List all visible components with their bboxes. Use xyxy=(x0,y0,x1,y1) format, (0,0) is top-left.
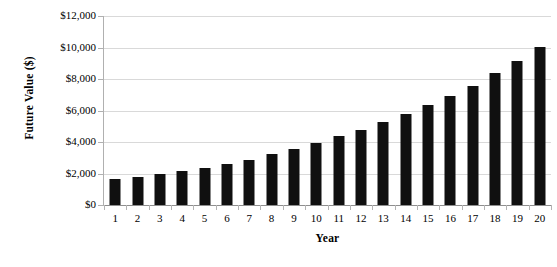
x-axis-tick xyxy=(305,205,306,210)
y-axis-tick xyxy=(98,16,104,17)
x-axis-tick-label: 7 xyxy=(238,211,260,225)
bar-slot xyxy=(305,16,327,205)
bar-slot xyxy=(462,16,484,205)
bar-slot xyxy=(372,16,394,205)
bar[interactable] xyxy=(177,171,188,205)
y-axis-tick-label: $12,000 xyxy=(2,10,96,21)
bar[interactable] xyxy=(221,164,232,205)
bar[interactable] xyxy=(311,143,322,205)
bar[interactable] xyxy=(288,149,299,205)
bar[interactable] xyxy=(378,122,389,205)
x-axis-tick xyxy=(283,205,284,210)
bar-slot xyxy=(506,16,528,205)
x-axis-tick xyxy=(551,205,552,210)
x-axis-tick xyxy=(104,205,105,210)
bar-slot xyxy=(283,16,305,205)
x-axis-tick xyxy=(216,205,217,210)
bar-slot xyxy=(126,16,148,205)
x-axis-tick xyxy=(350,205,351,210)
x-axis-tick xyxy=(506,205,507,210)
x-axis-tick-label: 6 xyxy=(216,211,238,225)
bar[interactable] xyxy=(400,114,411,205)
y-axis-tick-label: $10,000 xyxy=(2,42,96,53)
y-axis-tick-label: $0 xyxy=(2,199,96,210)
y-axis-tick-label: $2,000 xyxy=(2,168,96,179)
y-axis-tick xyxy=(98,111,104,112)
x-axis-tick-label: 8 xyxy=(260,211,282,225)
x-axis-tick-label: 17 xyxy=(462,211,484,225)
x-axis-tick-label: 1 xyxy=(104,211,126,225)
x-axis-tick xyxy=(126,205,127,210)
x-axis-tick xyxy=(171,205,172,210)
x-axis-tick-label: 3 xyxy=(149,211,171,225)
bar[interactable] xyxy=(199,168,210,205)
x-axis-tick xyxy=(328,205,329,210)
bar-slot xyxy=(395,16,417,205)
bar-slot xyxy=(439,16,461,205)
bar-slot xyxy=(484,16,506,205)
bar[interactable] xyxy=(423,105,434,205)
x-axis-tick-label: 19 xyxy=(506,211,528,225)
bar-slot xyxy=(171,16,193,205)
bar[interactable] xyxy=(244,160,255,205)
bar-slot xyxy=(193,16,215,205)
bar[interactable] xyxy=(512,61,523,205)
bar-slot xyxy=(350,16,372,205)
x-axis-tick-label: 10 xyxy=(305,211,327,225)
bar[interactable] xyxy=(445,96,456,205)
bar[interactable] xyxy=(132,177,143,205)
bar[interactable] xyxy=(467,86,478,205)
x-axis-tick xyxy=(462,205,463,210)
bar-series xyxy=(104,16,551,205)
x-axis-tick xyxy=(439,205,440,210)
x-axis-title: Year xyxy=(104,232,551,244)
y-axis-tick-label: $8,000 xyxy=(2,73,96,84)
bar[interactable] xyxy=(333,136,344,205)
x-axis-tick xyxy=(417,205,418,210)
x-axis-tick-label: 20 xyxy=(529,211,551,225)
y-axis-tick-label: $6,000 xyxy=(2,105,96,116)
bar-slot xyxy=(149,16,171,205)
x-axis-tick-label: 9 xyxy=(283,211,305,225)
y-axis-tick xyxy=(98,48,104,49)
x-axis-tick-label: 2 xyxy=(126,211,148,225)
bar[interactable] xyxy=(534,47,545,205)
x-axis-tick-label: 18 xyxy=(484,211,506,225)
bar-slot xyxy=(529,16,551,205)
x-axis-tick xyxy=(260,205,261,210)
x-axis-tick xyxy=(149,205,150,210)
x-axis-tick-labels: 1234567891011121314151617181920 xyxy=(104,211,551,227)
x-axis-tick-label: 11 xyxy=(328,211,350,225)
bar[interactable] xyxy=(356,130,367,205)
bar[interactable] xyxy=(110,179,121,205)
bar[interactable] xyxy=(154,174,165,205)
x-axis-tick-label: 16 xyxy=(439,211,461,225)
y-axis-tick-labels: $0$2,000$4,000$6,000$8,000$10,000$12,000 xyxy=(0,0,96,267)
x-axis-tick-label: 5 xyxy=(193,211,215,225)
x-axis-tick xyxy=(193,205,194,210)
x-axis-tick xyxy=(372,205,373,210)
x-axis-tick xyxy=(395,205,396,210)
y-axis-tick-label: $4,000 xyxy=(2,136,96,147)
bar-slot xyxy=(104,16,126,205)
x-axis-tick-label: 13 xyxy=(372,211,394,225)
bar-slot xyxy=(260,16,282,205)
bar-slot xyxy=(238,16,260,205)
y-axis-tick xyxy=(98,79,104,80)
bar-slot xyxy=(216,16,238,205)
y-axis-tick xyxy=(98,174,104,175)
bar-slot xyxy=(328,16,350,205)
future-value-bar-chart: Future Value ($) $0$2,000$4,000$6,000$8,… xyxy=(0,0,557,267)
x-axis-tick xyxy=(529,205,530,210)
x-axis-tick xyxy=(238,205,239,210)
y-axis-tick xyxy=(98,142,104,143)
x-axis-tick-label: 4 xyxy=(171,211,193,225)
bar[interactable] xyxy=(490,73,501,205)
bar-slot xyxy=(417,16,439,205)
x-axis-tick-label: 15 xyxy=(417,211,439,225)
x-axis-tick xyxy=(484,205,485,210)
bar[interactable] xyxy=(266,154,277,205)
x-axis-tick-label: 12 xyxy=(350,211,372,225)
x-axis-tick-label: 14 xyxy=(395,211,417,225)
